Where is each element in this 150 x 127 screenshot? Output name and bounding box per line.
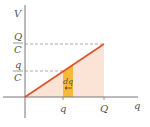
x-tick-Q-label: Q bbox=[100, 103, 108, 114]
y-axis-label: V bbox=[14, 8, 23, 19]
y-tick-qC-den: C bbox=[14, 72, 22, 83]
y-tick-QC-num: Q bbox=[14, 31, 22, 42]
dq-label: dq bbox=[63, 77, 73, 86]
v-q-graph: V q Q C q C q Q dq bbox=[0, 0, 150, 127]
y-tick-qC-num: q bbox=[15, 59, 21, 70]
x-tick-q-label: q bbox=[60, 103, 66, 114]
x-axis-label: q bbox=[134, 100, 140, 111]
y-tick-QC-den: C bbox=[14, 44, 22, 55]
